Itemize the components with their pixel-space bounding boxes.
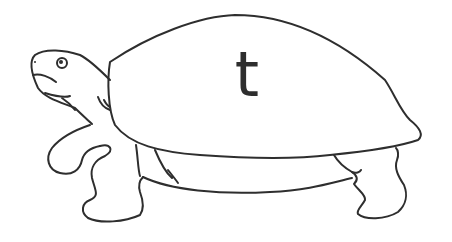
turtle-head xyxy=(31,50,110,124)
turtle-leg-fold xyxy=(136,145,140,176)
turtle-illustration xyxy=(0,0,452,242)
turtle-back-leg-toe xyxy=(352,170,361,173)
turtle-back-leg xyxy=(334,148,406,218)
shell-letter: t xyxy=(222,40,272,120)
turtle-mouth xyxy=(33,74,56,82)
turtle-tail-fold xyxy=(155,150,178,183)
turtle-nostril xyxy=(34,61,36,63)
turtle-pupil xyxy=(59,60,63,64)
turtle-front-leg-right xyxy=(83,145,143,221)
